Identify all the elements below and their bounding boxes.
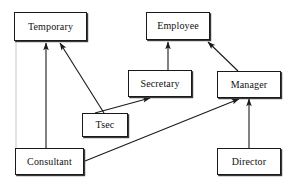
node-secretary[interactable]: Secretary [128, 70, 192, 97]
node-employee[interactable]: Employee [146, 12, 210, 40]
node-label-director: Director [232, 156, 267, 166]
node-tsec[interactable]: Tsec [82, 113, 128, 137]
node-label-manager: Manager [231, 79, 268, 89]
edge-manager-to-employee [208, 42, 238, 71]
inheritance-diagram: TemporaryEmployeeSecretaryManagerTsecCon… [0, 0, 294, 184]
edge-lines [46, 42, 249, 161]
edge-tsec-to-secretary [95, 98, 150, 113]
edge-tsec-to-temporary [60, 43, 104, 113]
node-temporary[interactable]: Temporary [14, 12, 87, 41]
node-director[interactable]: Director [217, 148, 281, 175]
node-label-secretary: Secretary [140, 78, 179, 88]
node-label-consultant: Consultant [27, 156, 72, 166]
node-label-tsec: Tsec [96, 120, 115, 130]
node-label-employee: Employee [157, 21, 199, 31]
node-manager[interactable]: Manager [217, 71, 281, 98]
node-consultant[interactable]: Consultant [15, 148, 84, 175]
node-label-temporary: Temporary [28, 21, 73, 31]
